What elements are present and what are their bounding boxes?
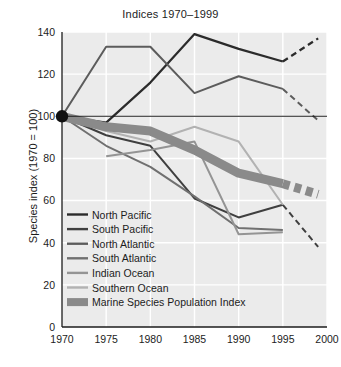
- x-axis-tick-label: 1975: [94, 333, 118, 345]
- x-axis-tick-label: 2000: [315, 333, 339, 345]
- x-axis-tick-label: 1970: [50, 333, 74, 345]
- legend-item-label: Indian Ocean: [92, 267, 155, 279]
- y-axis-tick-label: 140: [37, 26, 55, 38]
- y-axis-tick-label: 40: [43, 237, 55, 249]
- legend-swatch: [67, 298, 88, 306]
- legend-item-label: North Pacific: [92, 209, 152, 221]
- legend-item-label: Marine Species Population Index: [92, 296, 246, 308]
- chart-plot-area: 0204060801001201401970197519801985199019…: [0, 0, 341, 367]
- legend-item-label: North Atlantic: [92, 238, 154, 250]
- x-axis-tick-label: 1990: [227, 333, 251, 345]
- legend-item-label: South Pacific: [92, 223, 153, 235]
- y-axis-tick-label: 80: [43, 152, 55, 164]
- x-axis-tick-label: 1995: [271, 333, 295, 345]
- origin-marker-dot: [56, 110, 68, 122]
- chart-container: Indices 1970–1999 Species index (1970 = …: [0, 0, 341, 367]
- x-axis-tick-label: 1980: [139, 333, 163, 345]
- y-axis-tick-label: 100: [37, 110, 55, 122]
- y-axis-tick-label: 60: [43, 194, 55, 206]
- y-axis-tick-label: 120: [37, 68, 55, 80]
- legend-item-label: South Atlantic: [92, 252, 156, 264]
- x-axis-tick-label: 1985: [183, 333, 207, 345]
- y-axis-tick-label: 0: [49, 321, 55, 333]
- y-axis-tick-label: 20: [43, 279, 55, 291]
- legend-item-label: Southern Ocean: [92, 282, 169, 294]
